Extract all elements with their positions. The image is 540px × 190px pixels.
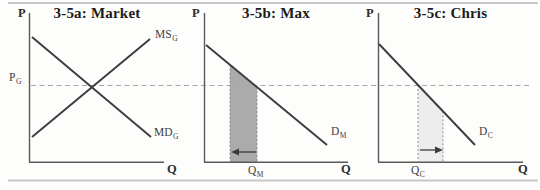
chris-panel-axes (378, 13, 523, 162)
max-x-axis-label: Q (341, 163, 351, 176)
max-y-axis-label: P (192, 7, 200, 20)
market-panel-axes (29, 13, 164, 162)
market-demand-curve-label-main: MD (154, 126, 173, 138)
market-x-axis-label: Q (167, 163, 177, 176)
max-quantity-label: QM (248, 165, 263, 177)
figure-canvas (0, 0, 540, 190)
max-panel-title: 3-5b: Max (204, 6, 348, 21)
max-panel-axes (204, 13, 348, 162)
market-panel-title: 3-5a: Market (30, 6, 164, 21)
chris-x-axis-label: Q (518, 163, 528, 176)
market-y-axis-label: P (18, 7, 26, 20)
chris-demand-curve-label: DC (479, 126, 493, 138)
chris-quantity-label: QC (411, 165, 425, 177)
equilibrium-price-label-sub: G (16, 77, 21, 86)
chris-panel-title: 3-5c: Chris (378, 6, 523, 21)
chris-y-axis-label: P (366, 7, 374, 20)
chris-quantity-label-sub: C (420, 170, 425, 179)
chris-demand-curve-label-main: D (479, 125, 487, 137)
max-quantity-label-main: Q (248, 164, 256, 176)
max-quantity-label-sub: M (257, 170, 264, 179)
max-consumption-band (230, 65, 257, 162)
chris-demand-curve-label-sub: C (488, 131, 493, 140)
market-supply-curve-label-sub: G (172, 34, 177, 43)
max-demand-curve-label: DM (331, 126, 346, 138)
market-supply-curve-label: MSG (155, 29, 178, 41)
supply-demand-figure: 3-5a: Market P Q PG MSG MDG 3-5b: Max P … (0, 0, 540, 190)
market-demand-curve-label: MDG (154, 127, 178, 139)
max-demand-curve-label-sub: M (340, 131, 347, 140)
market-demand-curve-label-sub: G (173, 132, 178, 141)
market-supply-curve-label-main: MS (155, 28, 172, 40)
equilibrium-price-label-main: P (9, 71, 15, 83)
max-demand-curve-label-main: D (331, 125, 339, 137)
chris-quantity-label-main: Q (411, 164, 419, 176)
equilibrium-price-label: PG (9, 72, 21, 84)
max-demand-curve (206, 45, 327, 145)
